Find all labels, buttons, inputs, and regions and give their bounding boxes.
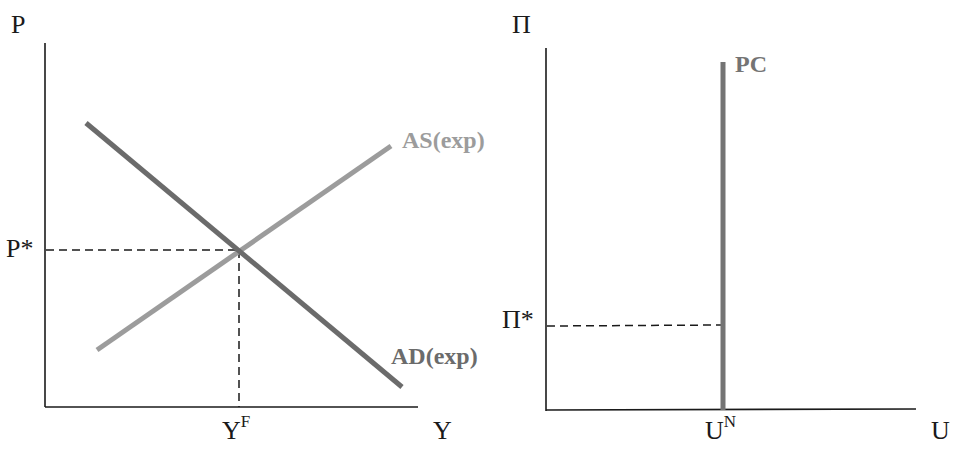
pc-curve-label: PC xyxy=(735,51,767,77)
p-axis-label: P xyxy=(11,10,25,39)
u-axis-label: U xyxy=(931,416,950,445)
y-f-label: YF xyxy=(222,412,250,445)
as-curve-label: AS(exp) xyxy=(402,127,485,153)
u-axis xyxy=(546,409,916,410)
y-f-superscript: F xyxy=(241,412,250,431)
pi-star-label: Π* xyxy=(502,305,534,334)
y-f-base: Y xyxy=(222,416,241,445)
u-n-label: UN xyxy=(705,412,736,445)
y-axis-label: Y xyxy=(433,416,452,445)
as-curve xyxy=(97,146,391,350)
pi-star-dashed-line xyxy=(547,325,721,326)
p-star-label: P* xyxy=(6,234,33,263)
ad-curve-label: AD(exp) xyxy=(391,343,478,369)
ad-as-chart: P P* Y YF AS(exp) AD(exp) xyxy=(6,10,485,445)
u-n-base: U xyxy=(705,416,724,445)
pi-axis-label: Π xyxy=(512,10,531,39)
u-n-superscript: N xyxy=(724,412,736,431)
diagram-canvas: P P* Y YF AS(exp) AD(exp) Π Π* U UN PC xyxy=(0,0,956,453)
phillips-curve-chart: Π Π* U UN PC xyxy=(502,10,950,445)
ad-curve xyxy=(86,123,402,387)
